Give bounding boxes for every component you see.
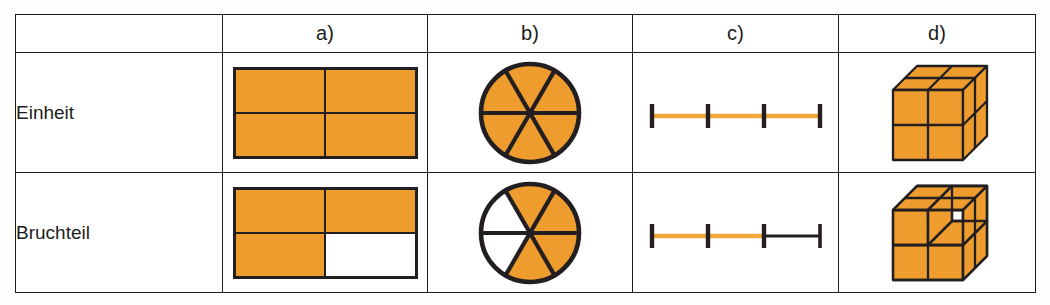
cell-bruchteil-a	[223, 173, 428, 293]
row-label-bruchteil: Bruchteil	[16, 173, 223, 293]
cell-einheit-d	[839, 53, 1036, 173]
header-cell-blank	[16, 15, 223, 53]
column-header-d: d)	[839, 15, 1036, 53]
worksheet-figure: a) b) c) d) Einheit	[0, 0, 1050, 305]
rect-part	[325, 69, 416, 113]
cell-bruchteil-b	[428, 173, 633, 293]
cube-2x2x2-part	[879, 178, 995, 288]
cell-bruchteil-c	[633, 173, 839, 293]
row-label-einheit: Einheit	[16, 53, 223, 173]
rectangle-grid-part	[233, 187, 418, 279]
rect-part	[235, 69, 326, 113]
rectangle-grid-whole	[233, 67, 418, 159]
column-header-b: b)	[428, 15, 633, 53]
table-header-row: a) b) c) d)	[16, 15, 1036, 53]
table-row-bruchteil: Bruchteil	[16, 173, 1036, 293]
rect-part	[235, 233, 326, 277]
cell-einheit-b	[428, 53, 633, 173]
fraction-representations-table: a) b) c) d) Einheit	[15, 14, 1036, 293]
rect-part	[235, 113, 326, 157]
rect-part	[325, 233, 416, 277]
column-header-a: a)	[223, 15, 428, 53]
cell-einheit-a	[223, 53, 428, 173]
rect-part	[325, 113, 416, 157]
rect-part	[235, 189, 326, 233]
number-line-part	[646, 216, 826, 250]
circle-sectors-whole	[476, 59, 584, 167]
circle-sectors-part	[476, 179, 584, 287]
number-line-whole	[646, 96, 826, 130]
rect-part	[325, 189, 416, 233]
cube-2x2x2-whole	[879, 58, 995, 168]
cell-einheit-c	[633, 53, 839, 173]
cell-bruchteil-d	[839, 173, 1036, 293]
table-row-einheit: Einheit	[16, 53, 1036, 173]
column-header-c: c)	[633, 15, 839, 53]
